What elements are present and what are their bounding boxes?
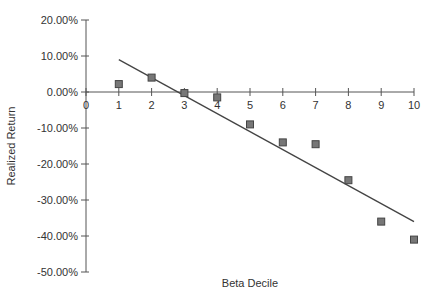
data-points: [115, 74, 417, 243]
x-tick-label: 7: [313, 99, 319, 111]
y-axis-title: Realized Return: [5, 107, 17, 186]
square-marker: [345, 177, 352, 184]
trend-line: [119, 60, 414, 222]
square-marker: [378, 218, 385, 225]
x-tick-label: 0: [83, 99, 89, 111]
x-axis-title: Beta Decile: [222, 277, 278, 289]
y-tick-label: 0.00%: [47, 86, 78, 98]
trend-line-segment: [119, 60, 414, 222]
y-tick-label: -30.00%: [37, 194, 78, 206]
x-tick-label: 6: [280, 99, 286, 111]
x-tick-label: 2: [149, 99, 155, 111]
x-axis: 012345678910: [83, 88, 420, 111]
square-marker: [411, 236, 418, 243]
x-tick-label: 9: [378, 99, 384, 111]
y-tick-label: 20.00%: [41, 14, 79, 26]
y-tick-label: -20.00%: [37, 158, 78, 170]
y-axis: 20.00%10.00%0.00%-10.00%-20.00%-30.00%-4…: [37, 14, 89, 278]
scatter-chart: 20.00%10.00%0.00%-10.00%-20.00%-30.00%-4…: [0, 0, 436, 297]
x-tick-label: 1: [116, 99, 122, 111]
y-tick-label: 10.00%: [41, 50, 79, 62]
square-marker: [181, 90, 188, 97]
square-marker: [214, 94, 221, 101]
y-tick-label: -50.00%: [37, 266, 78, 278]
x-tick-label: 10: [408, 99, 420, 111]
x-tick-label: 3: [181, 99, 187, 111]
y-tick-label: -10.00%: [37, 122, 78, 134]
square-marker: [148, 74, 155, 81]
square-marker: [312, 141, 319, 148]
x-tick-label: 5: [247, 99, 253, 111]
square-marker: [279, 139, 286, 146]
y-tick-label: -40.00%: [37, 230, 78, 242]
square-marker: [247, 121, 254, 128]
square-marker: [115, 81, 122, 88]
x-tick-label: 8: [345, 99, 351, 111]
